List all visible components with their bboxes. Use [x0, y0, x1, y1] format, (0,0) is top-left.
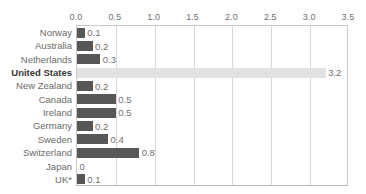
- bar-value-label: 0.1: [87, 173, 100, 186]
- bar-row: United States3.2: [0, 66, 366, 79]
- bar: [77, 121, 93, 131]
- category-label: Japan: [46, 160, 72, 173]
- category-label: United States: [11, 66, 72, 79]
- bar: [77, 41, 93, 51]
- category-label: Netherlands: [21, 53, 72, 66]
- bar-row: Sweden0.4: [0, 133, 366, 146]
- bar-rows: Norway0.1Australia0.2Netherlands0.3Unite…: [0, 0, 366, 194]
- bar-value-label: 0.8: [142, 146, 155, 159]
- bar-row: Netherlands0.3: [0, 53, 366, 66]
- bar-row: Germany0.2: [0, 119, 366, 132]
- bar-value-label: 0: [80, 160, 85, 173]
- bar: [77, 94, 116, 104]
- category-label: Sweden: [38, 133, 72, 146]
- bar: [77, 108, 116, 118]
- bar: [77, 148, 139, 158]
- bar-value-label: 0.5: [118, 106, 131, 119]
- bar-row: Ireland0.5: [0, 106, 366, 119]
- bar-row: Switzerland0.8: [0, 146, 366, 159]
- bar: [77, 134, 108, 144]
- bar-row: Australia0.2: [0, 39, 366, 52]
- bar-value-label: 0.1: [87, 26, 100, 39]
- bar: [77, 54, 100, 64]
- bar-row: Japan0: [0, 160, 366, 173]
- bar-row: Norway0.1: [0, 26, 366, 39]
- bar-chart-figure: 0.00.51.01.52.02.53.03.5 Norway0.1Austra…: [0, 0, 366, 194]
- bar: [77, 174, 85, 184]
- bar-value-label: 0.4: [111, 133, 124, 146]
- bar-row: UK*0.1: [0, 173, 366, 186]
- category-label: Canada: [39, 93, 72, 106]
- bar: [77, 81, 93, 91]
- bar-value-label: 0.3: [103, 53, 116, 66]
- bar-value-label: 0.2: [95, 40, 108, 53]
- bar-value-label: 0.2: [95, 80, 108, 93]
- category-label: Germany: [33, 119, 72, 132]
- bar: [77, 68, 326, 78]
- bar-value-label: 0.2: [95, 120, 108, 133]
- category-label: UK*: [55, 173, 72, 186]
- bar-row: Canada0.5: [0, 93, 366, 106]
- category-label: New Zealand: [16, 79, 72, 92]
- bar-value-label: 3.2: [328, 66, 341, 79]
- bar-row: New Zealand0.2: [0, 79, 366, 92]
- category-label: Ireland: [43, 106, 72, 119]
- bar-value-label: 0.5: [118, 93, 131, 106]
- category-label: Switzerland: [23, 146, 72, 159]
- category-label: Australia: [35, 39, 72, 52]
- category-label: Norway: [40, 26, 72, 39]
- bar: [77, 28, 85, 38]
